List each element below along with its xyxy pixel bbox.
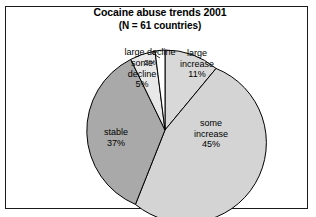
some-increase-name-l1: some xyxy=(178,118,244,129)
large-increase-value: 11% xyxy=(163,69,231,80)
some-decline-value: 5% xyxy=(113,79,171,90)
some-increase-name-l2: increase xyxy=(178,129,244,140)
large-increase-name-l1: large xyxy=(163,48,231,59)
stable-name: stable xyxy=(85,127,147,138)
pie-label-large-increase: large increase 11% xyxy=(163,48,231,80)
large-increase-name-l2: increase xyxy=(163,59,231,70)
pie-chart xyxy=(0,0,316,217)
pie-label-some-increase: some increase 45% xyxy=(178,118,244,150)
pie-label-stable: stable 37% xyxy=(85,127,147,148)
some-increase-value: 45% xyxy=(178,139,244,150)
stable-value: 37% xyxy=(85,138,147,149)
